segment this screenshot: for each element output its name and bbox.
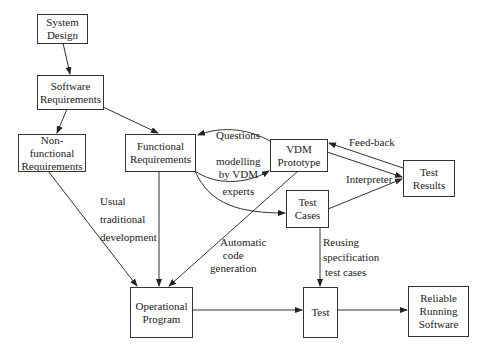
label-reusing-test-cases: Reusing specification test cases [323,235,379,280]
node-operational-program: Operational Program [130,287,193,338]
label-modelling: modelling by VDM experts [216,155,261,198]
label-usual-development: Usual traditional development [100,192,157,246]
node-system-design: System Design [37,14,88,44]
node-test-cases: Test Cases [286,190,329,228]
label-questions: Questions [216,129,260,142]
label-feedback: Feed-back [349,136,395,149]
edge-software-to-nonfunctional [57,109,67,133]
label-interpreter: Interpreter [346,173,392,186]
node-vdm-prototype: VDM Prototype [270,139,328,172]
node-software-requirements: Software Requirements [37,75,104,110]
node-reliable-running-software: Reliable Running Software [408,286,469,337]
edge-software-to-functional [103,107,158,133]
edge-system-to-software [63,43,70,74]
node-test-results: Test Results [403,160,455,197]
node-functional-requirements: Functional Requirements [125,134,196,172]
label-automatic-code-generation: Automatic code generation [200,236,266,275]
node-test: Test [303,287,338,338]
node-nonfunctional-requirements: Non-functional Requirements [18,134,86,172]
